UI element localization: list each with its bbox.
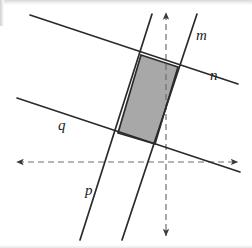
label-p: p	[84, 182, 93, 198]
label-q: q	[58, 117, 66, 133]
geometry-figure: m n p q	[0, 0, 252, 248]
figure-canvas: m n p q	[0, 0, 252, 248]
label-n: n	[210, 67, 218, 83]
label-m: m	[196, 27, 207, 43]
